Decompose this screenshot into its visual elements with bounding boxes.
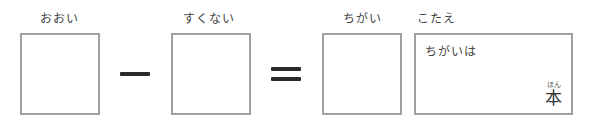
equals-bar-bottom bbox=[271, 77, 301, 81]
box-less[interactable] bbox=[171, 33, 251, 115]
minus-sign bbox=[120, 72, 150, 76]
label-more: おおい bbox=[40, 9, 79, 26]
label-difference: ちがい bbox=[343, 9, 382, 26]
label-less: すくない bbox=[183, 9, 235, 26]
box-answer[interactable]: ちがいは ほん 本 bbox=[414, 33, 573, 115]
label-answer: こたえ bbox=[417, 9, 456, 26]
unit-kanji: 本 bbox=[545, 89, 562, 107]
equals-bar-top bbox=[271, 67, 301, 71]
answer-prefix: ちがいは bbox=[425, 42, 477, 59]
box-difference[interactable] bbox=[322, 33, 402, 115]
box-more[interactable] bbox=[20, 33, 100, 115]
answer-unit: ほん 本 bbox=[545, 81, 562, 107]
